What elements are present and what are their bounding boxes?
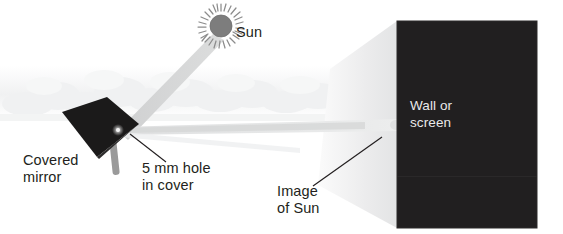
diagram-canvas: Sun Covered mirror 5 mm hole in cover Im… — [0, 0, 563, 234]
label-covered-mirror-line1: Covered — [23, 152, 79, 168]
label-wall-line2: screen — [410, 115, 451, 130]
label-image-of-sun-line1: Image — [277, 183, 318, 199]
label-covered-mirror-line2: mirror — [23, 169, 62, 185]
pinhole — [116, 128, 120, 132]
label-hole-line2: in cover — [142, 177, 194, 193]
label-hole-line1: 5 mm hole — [142, 160, 211, 176]
label-sun: Sun — [236, 24, 262, 40]
label-wall-line1: Wall or — [410, 98, 453, 113]
solar-projection-diagram: Sun Covered mirror 5 mm hole in cover Im… — [0, 0, 563, 234]
label-image-of-sun-line2: of Sun — [277, 200, 320, 216]
